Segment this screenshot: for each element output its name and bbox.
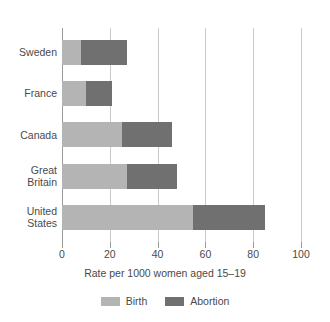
bar-segment-birth <box>62 122 122 147</box>
bar-row <box>62 164 177 189</box>
legend-swatch-abortion <box>165 297 184 306</box>
chart-legend: BirthAbortion <box>0 295 330 307</box>
y-axis-category-labels: SwedenFranceCanadaGreat BritainUnited St… <box>0 28 57 242</box>
legend-item-abortion: Abortion <box>165 295 229 307</box>
legend-swatch-birth <box>101 297 120 306</box>
legend-label: Abortion <box>190 295 229 307</box>
bar-segment-birth <box>62 164 127 189</box>
bar-row <box>62 40 127 65</box>
legend-item-birth: Birth <box>101 295 148 307</box>
bar-segment-birth <box>62 81 86 106</box>
bar-row <box>62 122 172 147</box>
bar-segment-birth <box>62 40 81 65</box>
x-axis-title: Rate per 1000 women aged 15–19 <box>0 267 330 279</box>
bar-segment-birth <box>62 205 193 230</box>
bar-row <box>62 205 265 230</box>
bar-row <box>62 81 112 106</box>
x-tick-label-100: 100 <box>292 248 310 260</box>
plot-area <box>62 28 301 242</box>
bar-segment-abortion <box>127 164 177 189</box>
x-tick-label-80: 80 <box>247 248 259 260</box>
category-label: United States <box>1 205 57 230</box>
stacked-bar-chart: SwedenFranceCanadaGreat BritainUnited St… <box>0 0 330 322</box>
category-label: Great Britain <box>1 164 57 189</box>
x-tick-label-40: 40 <box>152 248 164 260</box>
bar-segment-abortion <box>81 40 126 65</box>
x-tick-label-60: 60 <box>200 248 212 260</box>
category-label: France <box>1 87 57 100</box>
category-label: Sweden <box>1 46 57 59</box>
bar-segment-abortion <box>86 81 112 106</box>
x-tick-label-0: 0 <box>59 248 65 260</box>
gridline-100 <box>301 28 302 242</box>
bar-segment-abortion <box>122 122 172 147</box>
x-axis-tick-labels: 020406080100 <box>0 248 330 264</box>
legend-label: Birth <box>126 295 148 307</box>
x-tick-label-20: 20 <box>104 248 116 260</box>
bar-segment-abortion <box>193 205 265 230</box>
category-label: Canada <box>1 129 57 142</box>
